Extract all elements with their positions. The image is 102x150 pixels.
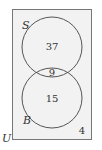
universe-label: U bbox=[2, 132, 12, 145]
set-b-label: B bbox=[22, 114, 31, 127]
s-only-count: 37 bbox=[46, 41, 59, 52]
venn-diagram: S 37 9 15 B 4 U bbox=[0, 0, 102, 150]
b-only-count: 15 bbox=[46, 93, 59, 104]
set-s-label: S bbox=[22, 19, 30, 32]
intersection-count: 9 bbox=[49, 67, 55, 78]
outside-count: 4 bbox=[79, 125, 85, 136]
